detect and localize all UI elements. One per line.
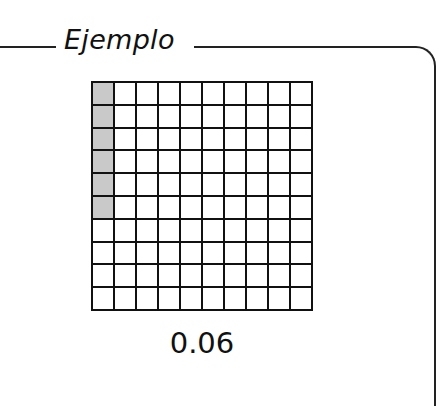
grid-cell bbox=[137, 243, 157, 264]
grid-cell bbox=[159, 174, 179, 195]
grid-cell bbox=[269, 129, 289, 150]
grid-cell bbox=[269, 288, 289, 309]
grid-cell bbox=[269, 197, 289, 218]
grid-cell bbox=[181, 288, 201, 309]
grid-cell bbox=[291, 288, 311, 309]
grid-cell bbox=[93, 288, 113, 309]
grid-cell bbox=[269, 174, 289, 195]
grid-cell bbox=[203, 220, 223, 241]
grid-cell bbox=[203, 243, 223, 264]
grid-cell bbox=[137, 106, 157, 127]
grid-cell bbox=[137, 220, 157, 241]
grid-cell bbox=[247, 288, 267, 309]
grid-cell-shaded bbox=[93, 129, 113, 150]
grid-cell bbox=[203, 174, 223, 195]
grid-cell bbox=[291, 83, 311, 104]
grid-cell bbox=[181, 220, 201, 241]
grid-cell bbox=[181, 83, 201, 104]
grid-cell bbox=[203, 106, 223, 127]
grid-cell bbox=[203, 265, 223, 286]
grid-cell-shaded bbox=[93, 197, 113, 218]
grid-cell bbox=[225, 151, 245, 172]
grid-cell-shaded bbox=[93, 151, 113, 172]
grid-cell bbox=[159, 265, 179, 286]
grid-cell bbox=[115, 129, 135, 150]
grid-cell bbox=[159, 197, 179, 218]
grid-cell bbox=[159, 288, 179, 309]
grid-cell-shaded bbox=[93, 106, 113, 127]
grid-cell bbox=[291, 243, 311, 264]
grid-cell bbox=[115, 265, 135, 286]
grid-cell bbox=[291, 220, 311, 241]
grid-cell bbox=[203, 83, 223, 104]
grid-cell bbox=[269, 83, 289, 104]
grid-cell bbox=[137, 83, 157, 104]
grid-cell bbox=[93, 265, 113, 286]
grid-cell bbox=[269, 106, 289, 127]
grid-cell bbox=[137, 197, 157, 218]
grid-cell bbox=[225, 220, 245, 241]
grid-cell bbox=[93, 220, 113, 241]
grid-cell bbox=[181, 151, 201, 172]
decimal-value: 0.06 bbox=[0, 326, 404, 360]
grid-cell bbox=[159, 106, 179, 127]
grid-cell bbox=[269, 265, 289, 286]
grid-cell bbox=[159, 129, 179, 150]
grid-cell bbox=[291, 265, 311, 286]
grid-cell bbox=[247, 220, 267, 241]
grid-cell bbox=[159, 83, 179, 104]
grid-cell bbox=[115, 83, 135, 104]
grid-cell bbox=[225, 83, 245, 104]
grid-cell bbox=[225, 174, 245, 195]
grid-cell bbox=[137, 129, 157, 150]
grid-cell bbox=[181, 174, 201, 195]
grid-cell bbox=[115, 243, 135, 264]
grid-cell bbox=[247, 106, 267, 127]
grid-cell bbox=[247, 243, 267, 264]
grid-cell bbox=[225, 243, 245, 264]
grid-cell bbox=[203, 151, 223, 172]
grid-cell bbox=[159, 220, 179, 241]
grid-cell bbox=[269, 220, 289, 241]
grid-cell bbox=[115, 106, 135, 127]
grid-cell bbox=[137, 151, 157, 172]
grid-cell-shaded bbox=[93, 83, 113, 104]
grid-cell bbox=[291, 151, 311, 172]
grid-cell bbox=[225, 197, 245, 218]
grid-cell bbox=[203, 129, 223, 150]
grid-cell bbox=[225, 106, 245, 127]
grid-cell bbox=[181, 106, 201, 127]
grid-cell bbox=[225, 288, 245, 309]
grid-cell bbox=[137, 174, 157, 195]
grid-cell bbox=[115, 288, 135, 309]
grid-cell bbox=[269, 151, 289, 172]
grid-cell bbox=[115, 220, 135, 241]
grid-cell bbox=[247, 151, 267, 172]
grid-cell bbox=[225, 129, 245, 150]
grid-cell bbox=[291, 129, 311, 150]
example-title: Ejemplo bbox=[64, 24, 175, 56]
grid-cell bbox=[137, 265, 157, 286]
grid-cell bbox=[181, 197, 201, 218]
grid-cell bbox=[115, 197, 135, 218]
grid-cell bbox=[291, 174, 311, 195]
grid-cell bbox=[203, 197, 223, 218]
grid-cell-shaded bbox=[93, 174, 113, 195]
grid-cell bbox=[225, 265, 245, 286]
grid-cell bbox=[181, 243, 201, 264]
grid-cell bbox=[247, 197, 267, 218]
grid-cell bbox=[291, 197, 311, 218]
grid-cell bbox=[247, 174, 267, 195]
grid-cell bbox=[181, 129, 201, 150]
grid-cell bbox=[93, 243, 113, 264]
grid-cell bbox=[247, 83, 267, 104]
grid-cell bbox=[181, 265, 201, 286]
grid-cell bbox=[291, 106, 311, 127]
grid-cell bbox=[115, 151, 135, 172]
hundredths-grid bbox=[91, 81, 313, 311]
grid-cell bbox=[115, 174, 135, 195]
grid-cell bbox=[247, 265, 267, 286]
grid-cell bbox=[269, 243, 289, 264]
grid-cell bbox=[203, 288, 223, 309]
grid-cell bbox=[137, 288, 157, 309]
